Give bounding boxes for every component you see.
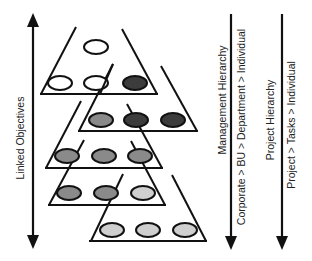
tier-1 <box>40 27 158 94</box>
node <box>92 149 116 163</box>
tier-5 <box>89 174 207 241</box>
node <box>55 149 79 163</box>
node <box>94 186 118 200</box>
node <box>124 113 148 127</box>
linked-objectives-arrow <box>27 13 39 249</box>
node <box>48 76 72 90</box>
tier-2 <box>78 64 198 131</box>
node <box>57 186 81 200</box>
node <box>84 40 108 54</box>
tier-3 <box>45 101 163 168</box>
project-hierarchy-path: Project > Tasks > Individual <box>285 61 297 189</box>
node <box>161 113 185 127</box>
node <box>131 186 155 200</box>
node <box>173 223 197 237</box>
linked-objectives-diagram: Linked Objectives <box>0 0 312 261</box>
arrow-down-icon <box>27 235 39 249</box>
node <box>128 149 152 163</box>
arrow-down-icon <box>276 236 288 250</box>
management-hierarchy-title: Management Hierarchy <box>216 45 228 155</box>
node <box>89 113 113 127</box>
node <box>100 223 124 237</box>
arrow-down-icon <box>225 236 237 250</box>
node <box>136 223 160 237</box>
project-hierarchy-title: Project Hierarchy <box>264 79 276 160</box>
arrow-up-icon <box>27 13 39 27</box>
node <box>123 76 147 90</box>
linked-objectives-label: Linked Objectives <box>14 97 26 180</box>
management-hierarchy-path: Corporate > BU > Department > Individual <box>235 29 247 225</box>
